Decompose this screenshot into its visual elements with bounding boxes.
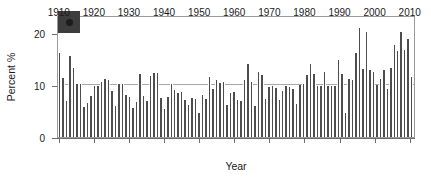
x-tick [129,138,130,143]
y-tick-label: 10 [0,81,45,92]
y-tick-label: 0 [0,133,45,144]
x-tick [375,138,376,143]
x-tick-label: 1930 [118,7,140,18]
plot-area [57,16,415,138]
x-tick [164,138,165,143]
x-tick-label: 2000 [364,7,386,18]
x-tick-label: 1980 [293,7,315,18]
x-tick [234,138,235,143]
y-axis-title: Percent % [5,53,17,101]
x-axis-title: Year [225,160,246,172]
bar-chart-figure: Percent % Year 0102019101920193019401950… [0,0,431,180]
x-tick-label: 1950 [188,7,210,18]
x-tick-label: 1960 [223,7,245,18]
x-tick [94,138,95,143]
x-tick-label: 2010 [399,7,421,18]
x-tick [340,138,341,143]
x-tick [59,138,60,143]
y-tick-label: 20 [0,29,45,40]
x-tick-label: 1970 [258,7,280,18]
x-axis [57,138,415,139]
x-tick [199,138,200,143]
bar [410,77,413,137]
x-tick-label: 1940 [153,7,175,18]
panel-label-marker [66,19,73,26]
x-tick [304,138,305,143]
bar-series [58,17,414,137]
x-tick-label: 1920 [83,7,105,18]
x-tick-label: 1910 [48,7,70,18]
x-tick-label: 1990 [328,7,350,18]
x-tick [410,138,411,143]
x-tick [269,138,270,143]
